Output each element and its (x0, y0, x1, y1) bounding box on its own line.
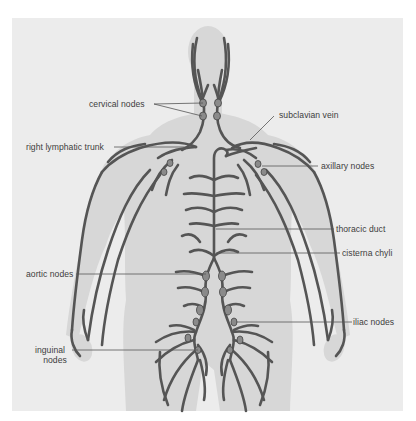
label-inguinal-line2: nodes (30, 355, 70, 365)
axillary-node (167, 160, 173, 167)
aortic-node (225, 305, 232, 315)
iliac-node (237, 336, 243, 344)
label-cisterna-chyli: cisterna chyli (342, 248, 392, 258)
label-subclavian-vein: subclavian vein (279, 110, 339, 120)
axillary-node (261, 169, 267, 176)
aortic-node (220, 287, 227, 297)
inguinal-node (185, 334, 191, 342)
aortic-node (197, 305, 204, 315)
aortic-node (202, 287, 209, 297)
label-right-lymphatic-trunk: right lymphatic trunk (26, 142, 104, 152)
aortic-node (219, 271, 226, 281)
label-axillary-nodes: axillary nodes (321, 161, 374, 171)
label-cervical-nodes: cervical nodes (89, 99, 145, 109)
inguinal-node (227, 347, 233, 354)
label-thoracic-duct: thoracic duct (336, 224, 385, 234)
label-inguinal-line1: inguinal (30, 345, 70, 355)
iliac-node (193, 318, 199, 326)
label-aortic-nodes: aortic nodes (26, 269, 73, 279)
label-inguinal-nodes: inguinal nodes (30, 345, 70, 365)
axillary-node (255, 161, 261, 168)
aortic-node (203, 271, 210, 281)
cervical-node (214, 112, 221, 120)
cervical-node (215, 99, 222, 107)
label-iliac-nodes: iliac nodes (353, 317, 394, 327)
axillary-node (161, 169, 167, 176)
